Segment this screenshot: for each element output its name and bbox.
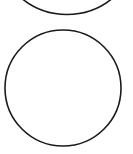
circles-figure <box>0 0 133 154</box>
image-canvas <box>0 0 133 154</box>
main-circle <box>5 30 121 146</box>
